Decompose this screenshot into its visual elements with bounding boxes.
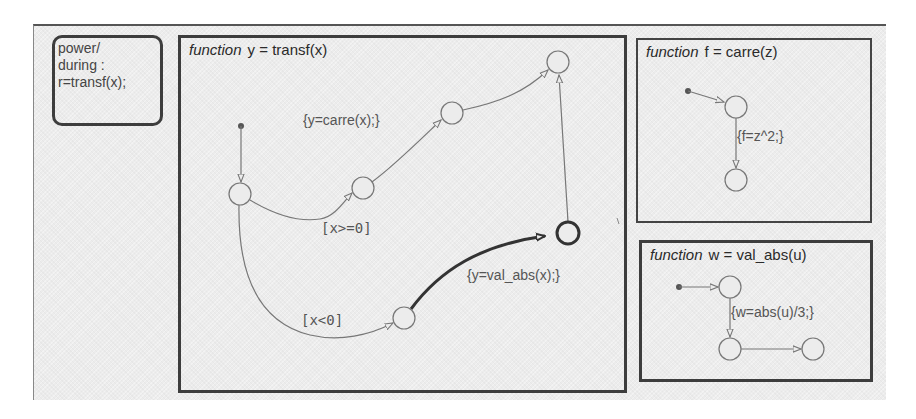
transition-label-x-lt-0: [x<0]	[301, 312, 343, 328]
junction-node-val-abs-2[interactable]	[719, 338, 741, 360]
junction-node-e[interactable]	[393, 307, 415, 329]
transition-graph: {y=carre(x);} [x>=0] {y=val_abs(x);} [x<…	[0, 0, 916, 419]
junction-node-d[interactable]	[547, 51, 569, 73]
transition-label-w-eq-abs: {w=abs(u)/3;}	[731, 304, 814, 320]
default-transition-val-abs[interactable]	[676, 284, 718, 290]
junction-node-val-abs-1[interactable]	[719, 276, 741, 298]
junction-node-c[interactable]	[441, 102, 463, 124]
transition-x-ge-0[interactable]	[250, 193, 352, 220]
junction-node-b[interactable]	[352, 177, 374, 199]
transition-c-to-d[interactable]	[463, 70, 548, 110]
transition-label-x-ge-0: [x>=0]	[321, 220, 372, 236]
transition-f-to-d[interactable]	[559, 75, 568, 222]
transition-label-val-abs: {y=val_abs(x);}	[467, 267, 560, 283]
junction-node-carre-1[interactable]	[725, 96, 747, 118]
junction-node-carre-2[interactable]	[725, 169, 747, 191]
default-transition-transf[interactable]	[238, 123, 244, 182]
junction-node-f[interactable]	[557, 222, 579, 244]
junction-node-a[interactable]	[229, 183, 251, 205]
junction-node-val-abs-3[interactable]	[802, 338, 824, 360]
default-transition-carre[interactable]	[685, 88, 724, 102]
transition-label-f-eq-z-sq: {f=z^2;}	[737, 128, 784, 144]
transition-b-to-c[interactable]	[372, 120, 441, 182]
transition-label-carre: {y=carre(x);}	[303, 112, 380, 128]
stray-mark	[617, 218, 619, 224]
